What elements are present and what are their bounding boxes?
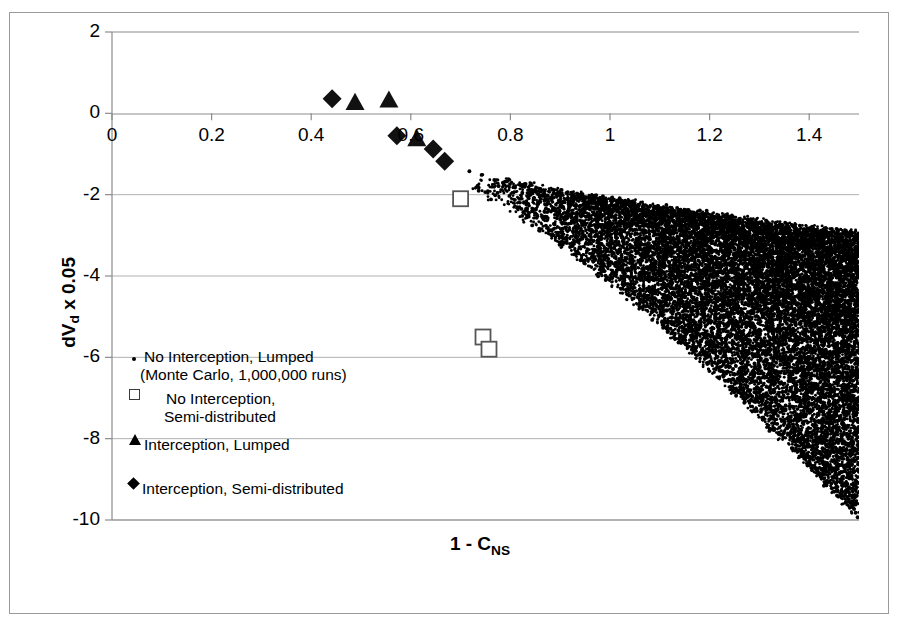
y-tick-label: -8 (50, 427, 100, 449)
legend-label-line2: Semi-distributed (164, 408, 428, 426)
y-tick-label: 0 (50, 101, 100, 123)
legend-marker-filled-triangle-icon (129, 434, 141, 445)
y-tick-label: -10 (50, 508, 100, 530)
legend-marker-filled-diamond-icon (127, 477, 140, 490)
y-tick-label: -2 (50, 183, 100, 205)
legend-marker-dot-icon (132, 357, 136, 361)
legend-item: Interception, Lumped (128, 436, 428, 454)
x-tick-label: 0 (87, 124, 137, 146)
y-tick-label: 2 (50, 20, 100, 42)
y-axis-title: dVd x 0.05 (58, 212, 83, 392)
legend-item: Interception, Semi-distributed (128, 480, 428, 498)
legend-label: No Interception, Lumped (144, 348, 428, 366)
x-tick-label: 1 (585, 124, 635, 146)
x-tick-label: 1.4 (784, 124, 834, 146)
x-tick-label: 0.4 (286, 124, 336, 146)
legend-label-line2: (Monte Carlo, 1,000,000 runs) (140, 366, 428, 384)
legend-label: No Interception, (166, 390, 428, 408)
x-tick-label: 0.2 (187, 124, 237, 146)
x-tick-label: 0.6 (386, 124, 436, 146)
monte-carlo-scatter-cloud (467, 169, 860, 519)
y-axis-ticks (105, 32, 112, 520)
legend-label: Interception, Semi-distributed (142, 480, 428, 498)
legend-item: No Interception, Lumped(Monte Carlo, 1,0… (128, 348, 428, 385)
legend-label: Interception, Lumped (144, 436, 428, 454)
legend-item: No Interception,Semi-distributed (128, 390, 428, 427)
series-open-square (453, 191, 496, 356)
x-axis-title-text: 1 - CNS (450, 533, 510, 554)
scatter-plot-figure: 20-2-4-6-8-10 00.20.40.60.811.21.4 dVd x… (0, 0, 902, 632)
x-tick-label: 1.2 (685, 124, 735, 146)
legend-marker-open-square-icon (129, 389, 140, 400)
x-tick-label: 0.8 (485, 124, 535, 146)
x-axis-title: 1 - CNS (330, 533, 630, 558)
y-axis-title-text: dVd x 0.05 (58, 257, 79, 348)
